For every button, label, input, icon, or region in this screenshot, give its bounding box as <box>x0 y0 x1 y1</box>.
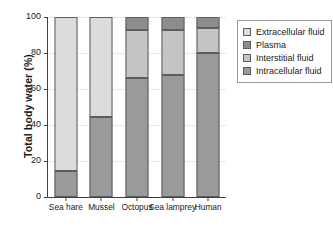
stacked-bar[interactable] <box>197 18 220 197</box>
bar-slot: Octopus <box>119 18 155 197</box>
bar-segment[interactable] <box>197 53 220 197</box>
bar-slot: Sea hare <box>48 18 84 197</box>
legend-swatch-icon <box>243 67 251 75</box>
bar-slot: Sea lamprey <box>155 18 191 197</box>
stacked-bar[interactable] <box>125 18 148 197</box>
legend-item[interactable]: Plasma <box>243 39 325 51</box>
y-tick-label: 80 <box>15 47 41 57</box>
y-tick-label: 20 <box>15 155 41 165</box>
bar-segment[interactable] <box>90 17 113 117</box>
legend-item[interactable]: Intracellular fluid <box>243 65 325 77</box>
bar-slot: Mussel <box>84 18 120 197</box>
legend-item[interactable]: Interstitial fluid <box>243 52 325 64</box>
y-tick-label: 60 <box>15 83 41 93</box>
x-tick-mark <box>136 197 137 201</box>
x-tick-label: Human <box>195 202 222 212</box>
bar-segment[interactable] <box>197 28 220 53</box>
x-tick-mark <box>101 197 102 201</box>
bar-segment[interactable] <box>125 30 148 79</box>
legend-swatch-icon <box>243 28 251 36</box>
y-tick-label: 0 <box>15 191 41 201</box>
x-tick-mark <box>172 197 173 201</box>
x-tick-label: Octopus <box>121 202 152 212</box>
x-tick-mark <box>65 197 66 201</box>
bar-segment[interactable] <box>161 17 184 30</box>
x-tick-label: Sea hare <box>49 202 83 212</box>
bar-slot: Human <box>190 18 226 197</box>
stacked-bar[interactable] <box>90 18 113 197</box>
x-tick-label: Mussel <box>88 202 115 212</box>
legend-label: Plasma <box>256 40 286 50</box>
bar-segment[interactable] <box>54 171 77 197</box>
stacked-bar[interactable] <box>54 18 77 197</box>
bar-segment[interactable] <box>197 17 220 28</box>
legend-label: Extracellular fluid <box>256 27 325 37</box>
chart-legend: Extracellular fluidPlasmaInterstitial fl… <box>237 20 332 83</box>
bar-segment[interactable] <box>54 17 77 171</box>
bar-segment[interactable] <box>125 17 148 30</box>
bar-group: Sea hareMusselOctopusSea lampreyHuman <box>48 18 226 197</box>
stacked-bar[interactable] <box>161 18 184 197</box>
legend-item[interactable]: Extracellular fluid <box>243 26 325 38</box>
bar-segment[interactable] <box>161 75 184 197</box>
x-tick-label: Sea lamprey <box>149 202 196 212</box>
plot-area: 020406080100 Sea hareMusselOctopusSea la… <box>47 18 226 198</box>
legend-label: Intracellular fluid <box>256 66 322 76</box>
bar-segment[interactable] <box>90 117 113 197</box>
bar-segment[interactable] <box>161 30 184 75</box>
bar-segment[interactable] <box>125 78 148 197</box>
y-tick-label: 100 <box>15 11 41 21</box>
legend-swatch-icon <box>243 41 251 49</box>
x-tick-mark <box>208 197 209 201</box>
stacked-bar-chart-figure: Total body water (%) 020406080100 Sea ha… <box>0 0 333 232</box>
legend-label: Interstitial fluid <box>256 53 314 63</box>
y-tick-label: 40 <box>15 119 41 129</box>
legend-swatch-icon <box>243 54 251 62</box>
